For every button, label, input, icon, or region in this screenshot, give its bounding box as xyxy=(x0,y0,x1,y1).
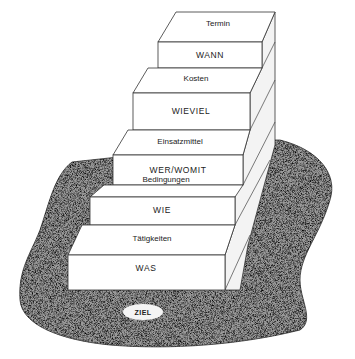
step-3-tread-label: Einsatzmittel xyxy=(157,137,202,146)
step-2-riser-label: WIEVIEL xyxy=(172,106,211,116)
step-1-tread-label: Termin xyxy=(206,19,230,28)
step-2-tread-label: Kosten xyxy=(184,74,209,83)
step-5-tread-label: Tätigkeiten xyxy=(132,234,171,243)
step-5-riser-label: WAS xyxy=(136,263,157,273)
goal-label: ZIEL xyxy=(134,309,151,316)
step-1-riser-label: WANN xyxy=(196,50,224,60)
step-3-riser-label: WER/WOMIT xyxy=(150,165,207,175)
step-4-riser-label: WIE xyxy=(153,205,171,215)
step-4-tread-label: Bedingungen xyxy=(142,175,189,184)
